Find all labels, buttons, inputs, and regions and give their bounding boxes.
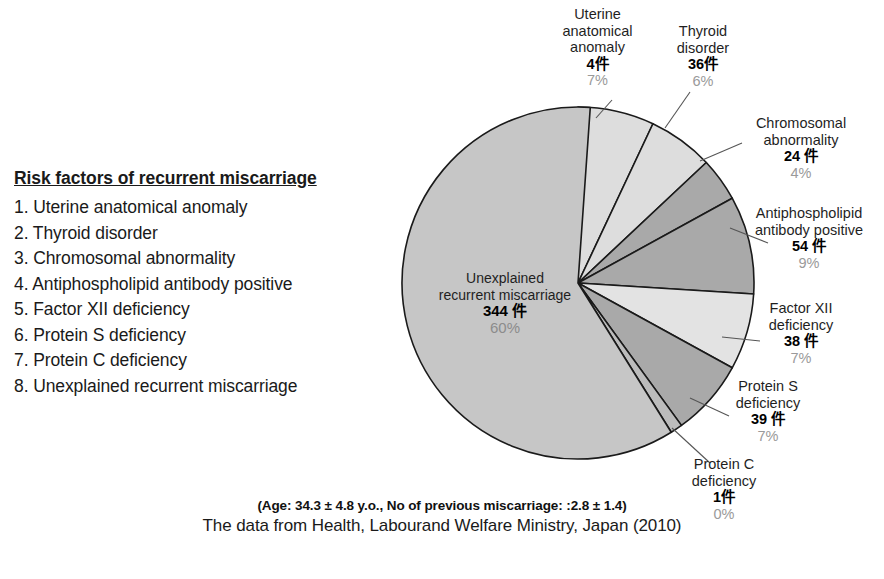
callout-percent: 4% bbox=[733, 165, 869, 182]
callout-count: 39 件 bbox=[712, 411, 824, 428]
callout-factor-xii-deficiency: Factor XII deficiency 38 件 7% bbox=[742, 300, 860, 366]
leader-line-thyroid bbox=[665, 92, 690, 128]
callout-count: 54 件 bbox=[737, 238, 881, 255]
callout-label-line1: Protein C bbox=[668, 456, 780, 473]
callout-label-line2: antibody positive bbox=[737, 222, 881, 239]
callout-count: 36件 bbox=[655, 56, 751, 73]
callout-count: 24 件 bbox=[733, 148, 869, 165]
callout-percent: 7% bbox=[712, 428, 824, 445]
callout-label-line2: anatomical bbox=[545, 23, 650, 40]
chart-footer: (Age: 34.3 ± 4.8 y.o., No of previous mi… bbox=[0, 498, 884, 536]
callout-label-line1: Uterine bbox=[545, 6, 650, 23]
callout-antiphospholipid-antibody-positive: Antiphospholipid antibody positive 54 件 … bbox=[737, 205, 881, 271]
callout-percent: 7% bbox=[545, 72, 650, 89]
callout-label-line1: Protein S bbox=[712, 378, 824, 395]
callout-count: 344 件 bbox=[425, 303, 585, 320]
callout-label-line1: Unexplained bbox=[425, 270, 585, 287]
callout-label-line3: anomaly bbox=[545, 39, 650, 56]
callout-percent: 60% bbox=[425, 320, 585, 337]
callout-label-line1: Factor XII bbox=[742, 300, 860, 317]
callout-label-line2: recurrent miscarriage bbox=[425, 287, 585, 304]
callout-label-line2: deficiency bbox=[742, 317, 860, 334]
callout-count: 38 件 bbox=[742, 333, 860, 350]
callout-chromosomal-abnormality: Chromosomal abnormality 24 件 4% bbox=[733, 115, 869, 181]
callout-percent: 9% bbox=[737, 255, 881, 272]
footer-demographics-note: (Age: 34.3 ± 4.8 y.o., No of previous mi… bbox=[0, 498, 884, 513]
callout-percent: 7% bbox=[742, 350, 860, 367]
callout-protein-s-deficiency: Protein S deficiency 39 件 7% bbox=[712, 378, 824, 444]
footer-source-note: The data from Health, Labourand Welfare … bbox=[0, 516, 884, 536]
callout-thyroid-disorder: Thyroid disorder 36件 6% bbox=[655, 23, 751, 89]
callout-label-line2: abnormality bbox=[733, 132, 869, 149]
callout-label-line2: disorder bbox=[655, 40, 751, 57]
callout-percent: 6% bbox=[655, 73, 751, 90]
callout-label-line2: deficiency bbox=[712, 395, 824, 412]
callout-unexplained-recurrent-miscarriage: Unexplained recurrent miscarriage 344 件 … bbox=[425, 270, 585, 336]
callout-label-line1: Antiphospholipid bbox=[737, 205, 881, 222]
callout-count: 4件 bbox=[545, 56, 650, 73]
pie-chart: Uterine anatomical anomaly 4件 7% Thyroid… bbox=[0, 0, 884, 579]
callout-label-line1: Thyroid bbox=[655, 23, 751, 40]
callout-label-line2: deficiency bbox=[668, 473, 780, 490]
callout-label-line1: Chromosomal bbox=[733, 115, 869, 132]
callout-uterine-anatomical-anomaly: Uterine anatomical anomaly 4件 7% bbox=[545, 6, 650, 89]
